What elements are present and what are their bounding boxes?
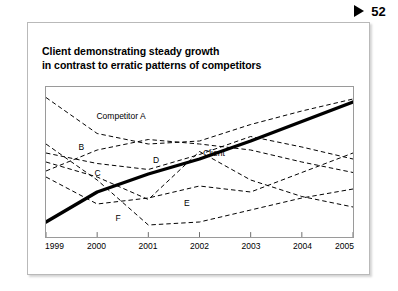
chart-series-label: E [184, 199, 190, 208]
chart-plot-area: ClientCompetitor ABCDEF [45, 86, 354, 238]
chart-series-label: F [116, 214, 121, 223]
chart-series-label: Competitor A [96, 112, 145, 121]
chart-series-label: B [78, 143, 84, 152]
x-axis-tick-label: 2002 [190, 241, 209, 251]
x-axis-tick-label: 2003 [242, 241, 261, 251]
slide-card: Client demonstrating steady growth in co… [27, 22, 370, 275]
slide-title: Client demonstrating steady growth in co… [42, 44, 362, 72]
x-axis-tick-label: 2004 [293, 241, 312, 251]
chart-series-label: C [94, 169, 100, 178]
x-axis-tick-label: 2001 [139, 241, 158, 251]
chart-x-axis: 1999200020012002200320042005 [45, 241, 354, 255]
chart-series-label: Client [203, 149, 225, 158]
x-axis-tick-label: 2005 [335, 241, 354, 251]
chart-series-line [46, 140, 353, 173]
slide-title-line-1: Client demonstrating steady growth [42, 44, 362, 58]
x-axis-tick-label: 1999 [45, 241, 64, 251]
chart-series-label: D [153, 156, 159, 165]
page-marker: 52 [354, 3, 386, 19]
page-number: 52 [371, 4, 386, 19]
chart-series-line [46, 144, 353, 225]
slide-title-line-2: in contrast to erratic patterns of compe… [42, 58, 362, 72]
x-axis-tick-label: 2000 [87, 241, 106, 251]
play-triangle-icon [354, 5, 364, 17]
chart-lines-svg [46, 87, 353, 237]
